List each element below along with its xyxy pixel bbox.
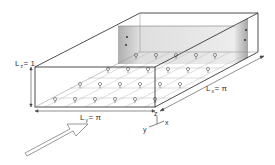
coordinate-axes: z x y <box>143 110 169 134</box>
shaded-back-wall <box>118 18 248 64</box>
svg-text:= 1: = 1 <box>24 59 36 68</box>
svg-text:y: y <box>143 126 147 134</box>
svg-text:L: L <box>80 113 85 122</box>
svg-text:L: L <box>15 59 20 68</box>
label-ly: L y = π <box>80 113 101 123</box>
svg-text:L: L <box>206 84 211 93</box>
svg-text:z: z <box>154 110 158 117</box>
dimension-lines <box>30 56 264 112</box>
channel-diagram: L z = 1 L y = π L x = π z x y <box>0 0 275 165</box>
svg-text:x: x <box>165 119 169 126</box>
inflow-arrow-icon <box>25 124 88 156</box>
label-lz: L z = 1 <box>15 59 35 69</box>
svg-text:= π: = π <box>89 113 102 122</box>
svg-text:= π: = π <box>215 84 228 93</box>
label-lx: L x = π <box>206 84 227 94</box>
